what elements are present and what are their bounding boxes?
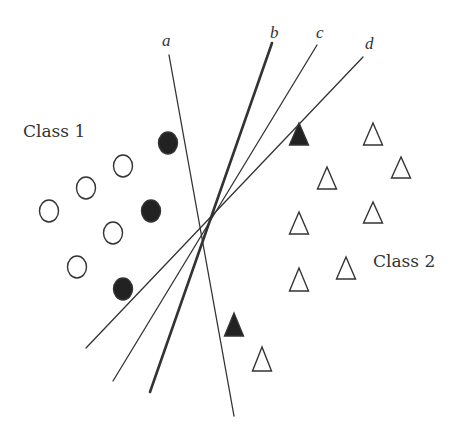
support-vector-triangle — [225, 313, 244, 336]
decision-boundary-diagram: Class 1 Class 2 abcd — [0, 0, 454, 435]
class-1-label: Class 1 — [23, 121, 85, 141]
support-vector-circle — [114, 278, 133, 300]
support-vector-triangle — [290, 123, 309, 145]
class-2-triangle — [290, 212, 309, 234]
class-2-triangle — [253, 347, 272, 371]
class-2-triangle — [318, 167, 337, 189]
line-label-d: d — [365, 34, 374, 53]
class-1-circle — [104, 222, 123, 244]
class-2-triangle — [364, 202, 383, 223]
class-1-circle — [40, 200, 59, 222]
labels: Class 1 Class 2 abcd — [23, 23, 435, 271]
class-2-label: Class 2 — [373, 251, 435, 271]
class-1-circle — [114, 155, 133, 177]
class-2-triangle — [364, 123, 383, 145]
class-1-circle — [77, 177, 96, 199]
class-2-triangle — [290, 268, 309, 291]
support-vector-circle — [159, 132, 178, 154]
separating-lines — [86, 43, 363, 416]
line-label-a: a — [162, 31, 171, 50]
line-label-c: c — [316, 23, 324, 42]
class-2-triangle — [392, 157, 411, 178]
boundary-line-d — [86, 57, 363, 348]
line-label-b: b — [270, 23, 279, 42]
class-1-circle — [68, 256, 87, 278]
support-vector-circle — [142, 200, 161, 222]
data-points — [40, 123, 411, 371]
class-2-triangle — [337, 257, 356, 279]
